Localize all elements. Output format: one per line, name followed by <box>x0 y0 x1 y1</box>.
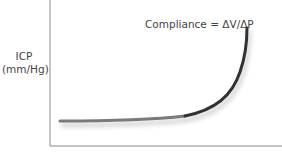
curve-decompensated-segment <box>185 28 247 116</box>
pressure-volume-chart <box>0 0 282 153</box>
curve-compensated-segment <box>60 116 185 121</box>
